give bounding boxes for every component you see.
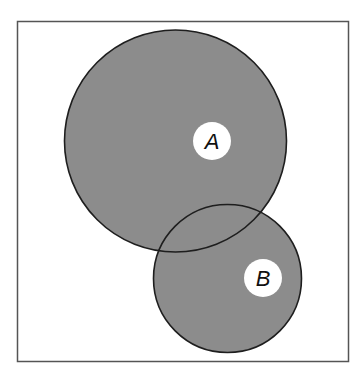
set-a-label-text: A	[203, 129, 220, 154]
venn-diagram: A B	[0, 0, 364, 382]
set-a-label: A	[193, 122, 231, 160]
set-b-label-text: B	[256, 266, 271, 291]
set-b-label: B	[244, 259, 282, 297]
